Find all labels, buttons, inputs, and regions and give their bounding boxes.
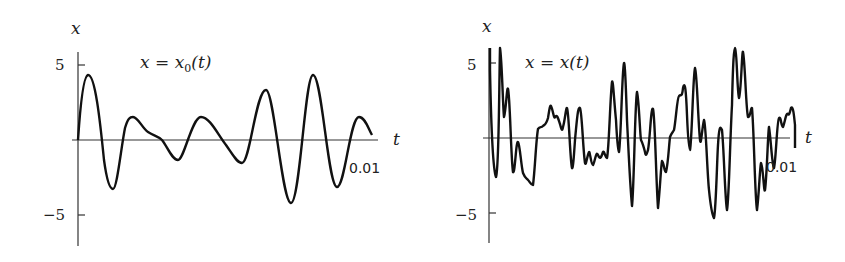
- y-axis-label: x: [482, 18, 492, 35]
- title-lhs: x: [525, 52, 535, 72]
- title-fn: x: [175, 52, 185, 72]
- plot-x-panel: x t 5 −5 0.01 x = x(t): [422, 0, 845, 262]
- y-tick-label-5: 5: [467, 58, 477, 73]
- title-arg: (t): [569, 52, 589, 72]
- t-axis-label: t: [805, 129, 812, 146]
- plot-x0-panel: x t 5 −5 0.01 x = x0(t): [0, 0, 422, 262]
- title-fn: x: [560, 52, 570, 72]
- plot-title: x = x0(t): [140, 54, 211, 74]
- plot-x-canvas: [422, 0, 845, 262]
- title-eq: =: [535, 52, 560, 72]
- t-end-label: 0.01: [766, 160, 797, 174]
- title-eq: =: [150, 52, 175, 72]
- y-tick-label-neg5: −5: [43, 208, 65, 223]
- y-tick-label-5: 5: [55, 58, 65, 73]
- y-tick-label-neg5: −5: [455, 208, 477, 223]
- y-axis-label: x: [71, 20, 81, 37]
- title-lhs: x: [140, 52, 150, 72]
- curve-x0: [78, 75, 372, 203]
- curve-x: [490, 48, 795, 218]
- t-axis-label: t: [393, 131, 400, 148]
- plot-title: x = x(t): [525, 54, 589, 71]
- t-end-label: 0.01: [349, 161, 380, 175]
- title-arg: (t): [191, 52, 211, 72]
